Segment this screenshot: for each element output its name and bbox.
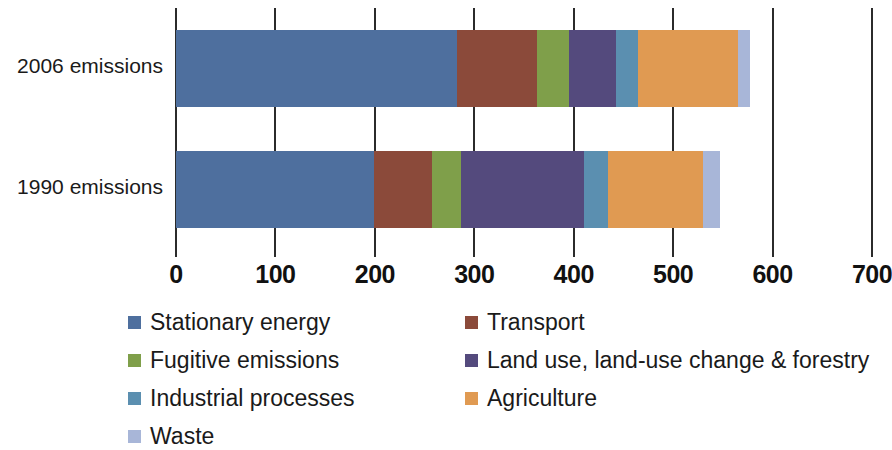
bar-segment [616,30,638,107]
stacked-bar [176,30,750,107]
bar-segment [461,151,583,228]
legend-swatch-icon [465,354,478,367]
legend-item[interactable]: Land use, land-use change & forestry [465,343,869,377]
x-tick-label: 400 [554,260,594,289]
legend-swatch-icon [128,430,141,443]
legend-column-right: TransportLand use, land-use change & for… [465,305,869,419]
plot-area: 0100200300400500600700 [176,8,872,248]
x-tick-label: 300 [454,260,494,289]
tick-mark-100 [274,248,276,257]
category-label: 1990 emissions [0,175,163,199]
bar-segment [432,151,462,228]
bar-segment [638,30,737,107]
legend-column-left: Stationary energyFugitive emissionsIndus… [128,305,355,450]
category-label: 2006 emissions [0,54,163,78]
legend-swatch-icon [465,392,478,405]
legend-item[interactable]: Transport [465,305,869,339]
tick-mark-700 [871,248,873,257]
bar-segment [703,151,720,228]
tick-mark-600 [772,248,774,257]
legend-item[interactable]: Fugitive emissions [128,343,355,377]
tick-mark-0 [175,248,177,257]
legend-swatch-icon [128,316,141,329]
stacked-bar [176,151,720,228]
x-tick-label: 500 [653,260,693,289]
bar-segment [457,30,537,107]
bar-segment [584,151,609,228]
chart-legend: Stationary energyFugitive emissionsIndus… [0,305,891,450]
bar-segment [374,151,432,228]
tick-mark-200 [374,248,376,257]
chart-area: 0100200300400500600700 2006 emissions199… [0,0,891,300]
legend-label: Stationary energy [150,311,330,334]
legend-item[interactable]: Waste [128,419,355,450]
legend-swatch-icon [465,316,478,329]
legend-label: Fugitive emissions [150,349,339,372]
legend-label: Transport [487,311,585,334]
x-tick-label: 200 [355,260,395,289]
x-tick-label: 100 [255,260,295,289]
gridline-700 [871,8,873,248]
x-tick-label: 700 [852,260,892,289]
bar-segment [738,30,750,107]
bar-segment [176,151,374,228]
gridline-600 [772,8,774,248]
legend-swatch-icon [128,392,141,405]
bar-segment [176,30,457,107]
legend-item[interactable]: Stationary energy [128,305,355,339]
legend-item[interactable]: Industrial processes [128,381,355,415]
legend-label: Waste [150,425,214,448]
bar-segment [608,151,702,228]
tick-mark-400 [573,248,575,257]
x-tick-label: 0 [169,260,182,289]
legend-item[interactable]: Agriculture [465,381,869,415]
legend-label: Land use, land-use change & forestry [487,349,869,372]
bar-segment [537,30,569,107]
tick-mark-300 [473,248,475,257]
legend-label: Industrial processes [150,387,355,410]
legend-label: Agriculture [487,387,597,410]
legend-swatch-icon [128,354,141,367]
x-tick-label: 600 [752,260,792,289]
tick-mark-500 [672,248,674,257]
bar-segment [569,30,617,107]
